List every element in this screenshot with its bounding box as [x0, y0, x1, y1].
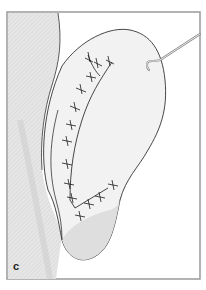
surgical-illustration [0, 0, 206, 290]
panel-label: c [13, 260, 19, 272]
